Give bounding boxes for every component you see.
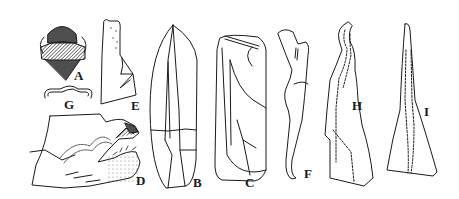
figure-plate: A B C D E F G H I [0,0,459,199]
label-h: H [352,99,362,112]
figure-c-forewing [215,35,266,181]
figure-b-forewing [150,25,197,188]
figure-h-aedeagus [325,22,373,186]
label-c: C [245,176,254,189]
figure-d-genitalia [30,114,140,188]
label-d: D [136,174,145,187]
label-b: B [193,176,202,189]
figure-f-style [278,30,309,179]
label-f: F [304,167,312,180]
figure-e-pygofer [101,20,136,105]
figure-i-aedeagus [387,24,437,176]
label-i: I [424,105,429,118]
label-g: G [64,98,74,111]
label-a: A [74,69,83,82]
label-e: E [131,99,140,112]
